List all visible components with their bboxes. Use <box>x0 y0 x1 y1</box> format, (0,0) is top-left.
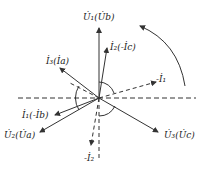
phasor-diagram: U̇₁(U̇b) İ₂(-İc) İ₃(İa) -İ₁ İ₁(-İb) U̇₂(… <box>0 0 209 178</box>
label-neg-i1: -İ₁ <box>156 74 166 84</box>
label-i2: İ₂(-İc) <box>110 42 136 52</box>
i3-phasor <box>60 68 99 98</box>
label-neg-i2: -İ₂ <box>84 153 94 163</box>
phasor-lines <box>0 0 209 178</box>
label-u2: U̇₂(U̇a) <box>4 130 35 140</box>
angle-arc-3 <box>99 106 115 116</box>
label-u3: U̇₃(U̇c) <box>164 130 195 140</box>
u3-phasor <box>99 98 158 132</box>
label-u1: U̇₁(U̇b) <box>83 12 115 22</box>
label-i1: İ₁(-İb) <box>22 110 49 120</box>
neg-i2-phasor <box>91 98 99 145</box>
i2-phasor <box>99 48 107 98</box>
label-i3: İ₃(İa) <box>46 56 69 66</box>
dashed-extension <box>68 82 99 98</box>
